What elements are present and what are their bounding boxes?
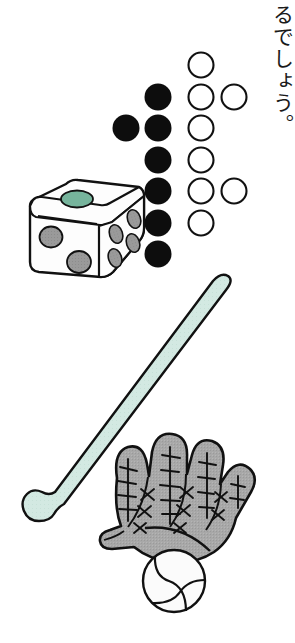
baseball xyxy=(143,550,205,612)
die xyxy=(30,180,144,277)
empty-circle xyxy=(222,85,247,110)
empty-circle xyxy=(189,179,214,204)
filled-circle xyxy=(145,115,172,142)
baseball-glove xyxy=(100,434,255,562)
empty-circle xyxy=(189,85,214,110)
filled-circle xyxy=(145,147,172,174)
empty-circle xyxy=(189,211,214,236)
filled-circle xyxy=(145,178,172,205)
filled-circle xyxy=(113,115,140,142)
illustration-page: るでしょう。 xyxy=(0,0,295,643)
empty-circle xyxy=(189,116,214,141)
empty-circle xyxy=(222,179,247,204)
illustration-canvas xyxy=(0,0,295,643)
filled-circle xyxy=(145,84,172,111)
die-pip-green xyxy=(61,191,93,208)
empty-circle xyxy=(189,148,214,173)
filled-circle xyxy=(145,210,172,237)
filled-circle xyxy=(145,241,172,268)
die-pip-gray xyxy=(67,251,91,273)
empty-circles-group xyxy=(189,53,247,236)
die-pip-gray xyxy=(40,227,63,248)
empty-circle xyxy=(189,53,214,78)
